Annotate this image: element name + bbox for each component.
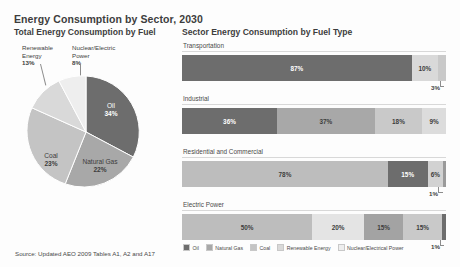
legend-swatch-icon xyxy=(250,244,257,251)
source-note: Source: Updated AEO 2009 Tables A1, A2 a… xyxy=(15,250,155,257)
bar-segment-oil[interactable]: 15% xyxy=(388,161,428,187)
bar-callout-residential-commercial: 1% xyxy=(182,187,446,196)
bar-rule xyxy=(182,210,446,211)
bar-block-transportation: Transportation 87% 10% 3% xyxy=(182,42,446,90)
bar-rule xyxy=(182,157,446,158)
legend-item-coal: Coal xyxy=(250,244,270,251)
bar-block-electric-power: Electric Power 50% 20% 15% 15% 1% xyxy=(182,201,446,249)
sector-bars: Transportation 87% 10% 3% Industrial 36%… xyxy=(182,42,446,254)
bar-block-residential-commercial: Residential and Commercial 78% 15% 6% 1% xyxy=(182,148,446,196)
bar-callout-value: 3% xyxy=(431,84,440,91)
callout-renewable-value: 13% xyxy=(22,59,70,67)
infographic-page: Energy Consumption by Sector, 2030 Total… xyxy=(0,0,460,267)
right-panel-title: Sector Energy Consumption by Fuel Type xyxy=(182,27,352,37)
bar-callout-industrial xyxy=(182,134,446,143)
legend-swatch-icon xyxy=(206,244,213,251)
legend: Oil Natural Gas Coal Renewable Energy Nu… xyxy=(183,244,404,251)
callout-tick xyxy=(440,81,444,87)
callout-renewable-name: Renewable Energy xyxy=(22,44,53,59)
bar-label-electric-power: Electric Power xyxy=(182,201,446,208)
stacked-bar-electric-power[interactable]: 50% 20% 15% 15% xyxy=(182,214,446,240)
bar-callout-value: 1% xyxy=(431,243,440,250)
pie-chart-total-energy: Oil34% Natural Gas22% Coal23% xyxy=(14,72,174,197)
legend-item-renewable-energy: Renewable Energy xyxy=(277,244,330,251)
bar-segment-nuclear-power[interactable]: 15% xyxy=(403,214,442,240)
legend-label: Coal xyxy=(260,245,271,251)
bar-callout-value: 1% xyxy=(429,190,438,197)
bar-segment-renewable-energy[interactable]: 9% xyxy=(422,108,446,134)
bar-label-residential-commercial: Residential and Commercial xyxy=(182,148,446,155)
bar-rule xyxy=(182,104,446,105)
page-title: Energy Consumption by Sector, 2030 xyxy=(14,13,203,25)
left-panel-title: Total Energy Consumption by Fuel xyxy=(14,27,156,37)
bar-segment-nuclear-power[interactable] xyxy=(438,55,446,81)
bar-rule xyxy=(182,51,446,52)
legend-label: Oil xyxy=(193,245,199,251)
bar-segment-renewable-energy[interactable]: 6% xyxy=(428,161,444,187)
bar-segment-nuclear-power[interactable] xyxy=(443,161,446,187)
bar-label-transportation: Transportation xyxy=(182,42,446,49)
bar-segment-natural-gas[interactable]: 37% xyxy=(277,108,375,134)
legend-item-nuclear-electrical-power: Nuclear/Electrical Power xyxy=(338,244,404,251)
pie-label-coal: Coal23% xyxy=(44,152,58,167)
callout-tick xyxy=(438,187,443,193)
bar-block-industrial: Industrial 36% 37% 18% 9% xyxy=(182,95,446,143)
legend-label: Renewable Energy xyxy=(287,245,331,251)
stacked-bar-industrial[interactable]: 36% 37% 18% 9% xyxy=(182,108,446,134)
pie-svg: Oil34% Natural Gas22% Coal23% xyxy=(14,72,174,197)
callout-renewable-energy: Renewable Energy 13% xyxy=(22,44,70,67)
bar-label-industrial: Industrial xyxy=(182,95,446,102)
stacked-bar-transportation[interactable]: 87% 10% xyxy=(182,55,446,81)
bar-segment-oil[interactable]: 87% xyxy=(182,55,412,81)
pie-slices xyxy=(27,76,139,187)
legend-label: Natural Gas xyxy=(215,245,243,251)
callout-nuclear-value: 8% xyxy=(72,59,132,67)
bar-segment-oil[interactable] xyxy=(442,214,446,240)
legend-swatch-icon xyxy=(338,244,345,251)
bar-segment-oil[interactable]: 36% xyxy=(182,108,277,134)
callout-nuclear-name: Nuclear/Electric Power xyxy=(72,44,115,59)
bar-segment-renewable-energy[interactable]: 10% xyxy=(412,55,438,81)
legend-label: Nuclear/Electrical Power xyxy=(347,245,404,251)
callout-tick xyxy=(440,240,444,246)
bar-segment-renewable-energy[interactable]: 20% xyxy=(312,214,364,240)
bar-segment-coal[interactable]: 50% xyxy=(182,214,312,240)
legend-swatch-icon xyxy=(183,244,190,251)
legend-item-oil: Oil xyxy=(183,244,199,251)
callout-nuclear-power: Nuclear/Electric Power 8% xyxy=(72,44,132,67)
bar-callout-transportation: 3% xyxy=(182,81,446,90)
legend-swatch-icon xyxy=(277,244,284,251)
bar-segment-coal[interactable]: 18% xyxy=(375,108,423,134)
bar-segment-natural-gas[interactable]: 78% xyxy=(182,161,388,187)
legend-item-natural-gas: Natural Gas xyxy=(206,244,243,251)
stacked-bar-residential-commercial[interactable]: 78% 15% 6% xyxy=(182,161,446,187)
bar-segment-natural-gas[interactable]: 15% xyxy=(364,214,403,240)
